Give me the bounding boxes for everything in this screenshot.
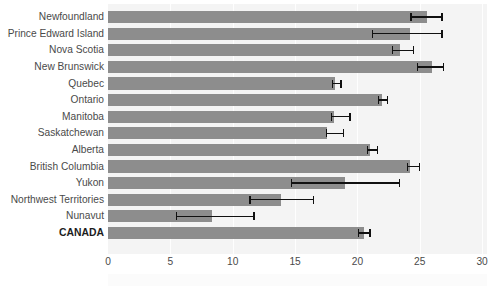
category-label-new-brunswick: New Brunswick bbox=[34, 61, 104, 73]
error-bar-line bbox=[411, 16, 442, 17]
error-bar-cap-high bbox=[413, 46, 414, 54]
category-label-canada: CANADA bbox=[59, 227, 104, 239]
bottom-shade-strip bbox=[108, 274, 487, 286]
x-axis: 051015202530 bbox=[0, 254, 495, 274]
error-bar-line bbox=[417, 66, 443, 67]
x-tick-label-10: 10 bbox=[227, 256, 238, 267]
bar bbox=[108, 77, 335, 89]
category-label-manitoba: Manitoba bbox=[62, 111, 104, 123]
x-tick-label-0: 0 bbox=[105, 256, 111, 267]
plot-area bbox=[108, 4, 487, 254]
category-label-newfoundland: Newfoundland bbox=[39, 11, 104, 23]
error-bar-cap-high bbox=[377, 146, 378, 154]
category-label-northwest-territories: Northwest Territories bbox=[11, 194, 104, 206]
bars-layer bbox=[108, 4, 487, 254]
error-bar-cap-low bbox=[176, 212, 177, 220]
bar bbox=[108, 11, 427, 23]
error-bar-cap-high bbox=[253, 212, 254, 220]
error-bar-cap-high bbox=[419, 163, 420, 171]
error-bar-cap-high bbox=[340, 80, 341, 88]
error-bar-cap-low bbox=[372, 30, 373, 38]
error-bar-line bbox=[177, 216, 254, 217]
error-bar-cap-low bbox=[331, 113, 332, 121]
error-bar-line bbox=[407, 166, 419, 167]
error-bar-cap-low bbox=[332, 80, 333, 88]
error-bar-cap-high bbox=[369, 229, 370, 237]
error-bar-cap-high bbox=[441, 30, 442, 38]
category-label-ontario: Ontario bbox=[71, 94, 104, 106]
x-tick-label-15: 15 bbox=[289, 256, 300, 267]
category-label-nunavut: Nunavut bbox=[66, 210, 104, 222]
error-bar-cap-low bbox=[367, 146, 368, 154]
error-bar-cap-low bbox=[326, 129, 327, 137]
bar bbox=[108, 127, 327, 139]
error-bar-cap-low bbox=[407, 163, 408, 171]
error-bar-cap-high bbox=[387, 96, 388, 104]
bar bbox=[108, 227, 364, 239]
error-bar-cap-high bbox=[443, 63, 444, 71]
bar bbox=[108, 111, 334, 123]
error-bar-line bbox=[326, 133, 343, 134]
category-label-quebec: Quebec bbox=[68, 78, 104, 90]
category-label-prince-edward-island: Prince Edward Island bbox=[8, 28, 104, 40]
bar bbox=[108, 160, 410, 172]
error-bar-cap-low bbox=[378, 96, 379, 104]
category-label-nova-scotia: Nova Scotia bbox=[49, 44, 104, 56]
category-label-saskatchewan: Saskatchewan bbox=[38, 127, 104, 139]
category-axis-labels: NewfoundlandPrince Edward IslandNova Sco… bbox=[0, 4, 104, 254]
error-bar-line bbox=[372, 33, 442, 34]
error-bar-cap-high bbox=[441, 13, 442, 21]
error-bar-line bbox=[250, 199, 314, 200]
error-bar-cap-low bbox=[358, 229, 359, 237]
error-bar-cap-high bbox=[349, 113, 350, 121]
chart-container: NewfoundlandPrince Edward IslandNova Sco… bbox=[0, 0, 495, 286]
bar bbox=[108, 94, 382, 106]
bar bbox=[108, 44, 400, 56]
error-bar-cap-low bbox=[417, 63, 418, 71]
error-bar-line bbox=[331, 116, 350, 117]
error-bar-line bbox=[392, 50, 413, 51]
x-tick-label-5: 5 bbox=[168, 256, 174, 267]
x-tick-label-25: 25 bbox=[414, 256, 425, 267]
category-label-british-columbia: British Columbia bbox=[30, 161, 104, 173]
error-bar-cap-high bbox=[399, 179, 400, 187]
error-bar-cap-high bbox=[313, 196, 314, 204]
bar bbox=[108, 61, 432, 73]
error-bar-cap-low bbox=[410, 13, 411, 21]
error-bar-line bbox=[291, 182, 399, 183]
error-bar-cap-low bbox=[291, 179, 292, 187]
category-label-alberta: Alberta bbox=[72, 144, 104, 156]
category-label-yukon: Yukon bbox=[76, 177, 104, 189]
bar bbox=[108, 28, 410, 40]
bar bbox=[108, 144, 370, 156]
x-tick-label-30: 30 bbox=[476, 256, 487, 267]
error-bar-cap-high bbox=[343, 129, 344, 137]
error-bar-cap-low bbox=[249, 196, 250, 204]
x-tick-label-20: 20 bbox=[352, 256, 363, 267]
error-bar-cap-low bbox=[392, 46, 393, 54]
